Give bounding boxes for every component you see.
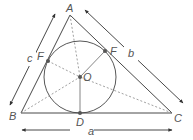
label-side-b: b [128,47,134,59]
bisector-c [80,77,172,113]
label-side-a: a [88,125,94,137]
point-d [78,111,82,115]
label-vertex-c: C [174,112,182,124]
label-tangent-f-left: F [37,50,45,62]
incircle-triangle-diagram: A B C O F F D c b a [0,0,193,140]
point-f-left [46,59,50,63]
label-side-c: c [27,52,33,64]
label-tangent-f-right: F [110,45,118,57]
bisector-a [70,15,80,77]
point-f-right [103,49,107,53]
label-vertex-a: A [65,2,73,14]
label-vertex-b: B [9,110,16,122]
label-center-o: O [83,71,92,83]
bisector-a-ext [48,61,80,77]
triangle-abc [21,15,172,113]
point-o [78,75,82,79]
label-tangent-d: D [76,116,84,128]
